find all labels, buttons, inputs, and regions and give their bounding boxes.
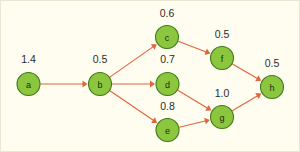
edge-b-c xyxy=(110,44,157,77)
edge-arrowhead-b-c xyxy=(151,44,157,50)
edge-c-f xyxy=(178,41,210,55)
edge-g-h xyxy=(232,93,261,111)
edge-b-e xyxy=(110,91,157,123)
node-e[interactable]: e xyxy=(156,119,179,142)
edge-arrowhead-b-d xyxy=(150,81,155,88)
edge-line-g-h xyxy=(232,95,258,110)
edge-f-h xyxy=(232,64,261,81)
node-g[interactable]: g xyxy=(211,106,234,129)
edge-line-c-f xyxy=(178,41,207,52)
node-b[interactable]: b xyxy=(89,73,112,96)
node-weight-f: 0.5 xyxy=(215,28,230,40)
node-weight-b: 0.5 xyxy=(93,53,108,65)
edge-e-g xyxy=(179,118,210,127)
edge-line-e-g xyxy=(179,121,206,127)
node-label-c: c xyxy=(165,33,170,43)
edge-a-b xyxy=(41,81,88,88)
edge-arrowhead-a-b xyxy=(83,81,88,88)
edge-line-b-e xyxy=(110,91,154,121)
node-label-b: b xyxy=(97,80,102,90)
node-weight-c: 0.6 xyxy=(160,7,175,19)
node-h[interactable]: h xyxy=(261,76,284,99)
edge-arrowhead-e-g xyxy=(204,118,210,125)
edge-line-f-h xyxy=(232,64,258,79)
node-label-a: a xyxy=(26,80,31,90)
node-c[interactable]: c xyxy=(156,26,179,49)
node-label-g: g xyxy=(219,113,224,123)
node-weight-d: 0.7 xyxy=(160,53,175,65)
node-weight-g: 1.0 xyxy=(215,87,230,99)
image-frame xyxy=(1,1,300,152)
graph-diagram: a1.4b0.5c0.6d0.7e0.8f0.5g1.0h0.5 xyxy=(0,0,300,152)
node-a[interactable]: a xyxy=(17,73,40,96)
node-label-e: e xyxy=(165,126,170,136)
node-label-d: d xyxy=(165,80,170,90)
nodes-layer: a1.4b0.5c0.6d0.7e0.8f0.5g1.0h0.5 xyxy=(17,7,284,142)
edge-b-d xyxy=(112,81,155,88)
node-weight-a: 1.4 xyxy=(21,53,36,65)
node-weight-e: 0.8 xyxy=(160,100,175,112)
graph-canvas: a1.4b0.5c0.6d0.7e0.8f0.5g1.0h0.5 xyxy=(0,0,300,152)
node-d[interactable]: d xyxy=(156,73,179,96)
edge-line-b-c xyxy=(110,46,154,77)
node-f[interactable]: f xyxy=(211,47,234,70)
edge-d-g xyxy=(178,90,212,111)
edge-line-d-g xyxy=(178,90,208,108)
node-weight-h: 0.5 xyxy=(265,57,280,69)
node-label-h: h xyxy=(269,83,274,93)
